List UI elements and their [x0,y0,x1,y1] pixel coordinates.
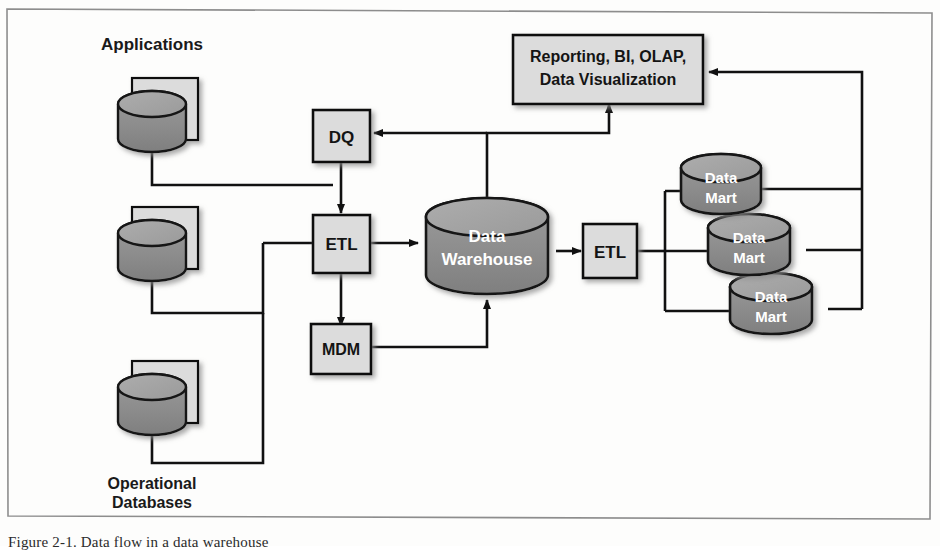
bottom-cylinder-icon [118,374,186,435]
middle-cylinder-icon [118,220,186,281]
operational-databases-label-line2: Databases [112,494,192,511]
reporting-label-line2: Data Visualization [540,71,677,88]
data-warehouse-label-line1: Data [469,227,506,246]
applications-label: Applications [101,35,203,54]
data-mart-1-label-line1: Data [705,169,738,186]
figure-caption: Figure 2-1. Data flow in a data warehous… [8,534,269,551]
data-warehouse-cylinder[interactable] [426,198,548,294]
dq-label: DQ [329,128,355,147]
flow-mdm-to-warehouse [369,300,487,347]
data-mart-3-label-line2: Mart [755,308,787,325]
data-warehouse-label-line2: Warehouse [441,250,532,269]
applications-cylinder-icon [118,91,186,152]
database-source-middle [118,207,198,281]
database-source-bottom [118,361,198,435]
reporting-box[interactable] [513,35,703,104]
flow-applications-to-etl [152,152,333,185]
data-mart-2-label-line2: Mart [733,249,765,266]
operational-databases-label-line1: Operational [108,475,197,492]
data-mart-1-label-line2: Mart [705,189,737,206]
applications-source [118,78,198,152]
etl-right-label: ETL [594,243,626,262]
data-mart-3-label-line1: Data [755,288,788,305]
data-mart-2-label-line1: Data [733,229,766,246]
etl-left-label: ETL [325,235,357,254]
flow-warehouse-to-reporting [487,104,609,203]
reporting-label-line1: Reporting, BI, OLAP, [530,48,686,65]
mdm-label: MDM [322,341,360,358]
